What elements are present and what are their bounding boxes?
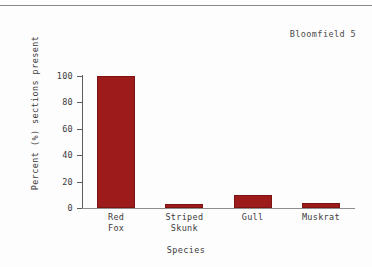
bar (234, 195, 272, 208)
bar (97, 76, 135, 208)
y-tick-mark (77, 208, 82, 209)
y-tick-label: 60 (62, 124, 73, 134)
x-tick-label: Muskrat (271, 212, 371, 223)
bar (302, 203, 340, 208)
y-axis-title: Percent (%) sections present (30, 33, 40, 193)
y-tick-label: 40 (62, 150, 73, 160)
bar-chart: 020406080100 Red FoxStriped SkunkGullMus… (0, 0, 372, 267)
bar (165, 204, 203, 208)
x-axis-spine (82, 208, 355, 209)
plot-area (82, 76, 355, 208)
y-tick-label: 20 (62, 177, 73, 187)
y-tick-label: 100 (57, 71, 73, 81)
y-tick-label: 80 (62, 97, 73, 107)
x-axis-title: Species (0, 245, 372, 255)
